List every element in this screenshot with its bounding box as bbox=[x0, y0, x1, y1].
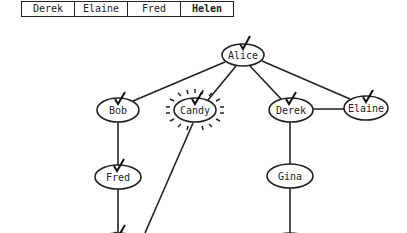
edge-alice-derek bbox=[250, 66, 282, 100]
edge-candy-down bbox=[145, 123, 193, 233]
node-label: Candy bbox=[180, 105, 210, 116]
node-label: Elaine bbox=[348, 103, 384, 114]
node-label: Gina bbox=[278, 171, 302, 182]
edges bbox=[118, 61, 350, 233]
check-icon bbox=[115, 225, 125, 233]
node-labels: Alice Bob Candy Derek Elaine Fred Gina bbox=[106, 50, 384, 183]
node-label: Alice bbox=[228, 50, 258, 61]
node-label: Bob bbox=[109, 105, 127, 116]
edge-alice-candy bbox=[208, 66, 236, 100]
node-label: Fred bbox=[106, 172, 130, 183]
graph-diagram: Alice Bob Candy Derek Elaine Fred Gina bbox=[0, 0, 407, 233]
nodes bbox=[95, 44, 388, 233]
node-label: Derek bbox=[276, 105, 306, 116]
